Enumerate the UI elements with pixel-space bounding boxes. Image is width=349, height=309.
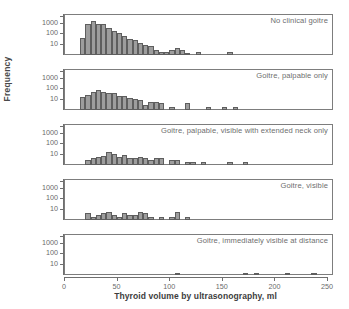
histogram-bar <box>190 162 195 165</box>
histogram-bar <box>254 273 259 275</box>
y-axis-tick: 10 <box>48 264 64 265</box>
x-axis-tick <box>64 277 65 281</box>
x-axis-title: Thyroid volume by ultrasonography, ml <box>64 291 327 301</box>
x-tick-label: 150 <box>216 282 228 291</box>
y-axis-tick: 1000 <box>48 133 64 134</box>
chart-panel: 101001000No clinical goitre <box>48 14 334 55</box>
y-axis-tick-top <box>48 16 64 17</box>
y-axis-tick: 10 <box>48 99 64 100</box>
y-axis-tick: 1000 <box>48 78 64 79</box>
panel-title: Goitre, immediately visible at distance <box>197 236 328 245</box>
panel-title: Goitre, visible <box>281 181 329 190</box>
histogram-bar <box>243 273 248 275</box>
x-axis-tick <box>327 277 328 281</box>
y-axis-tick: 100 <box>48 198 64 199</box>
y-axis-tick: 1000 <box>48 243 64 244</box>
y-tick-label: 10 <box>50 259 58 268</box>
chart-panel: 101001000Goitre, palpable only <box>48 69 334 110</box>
y-tick-label: 1000 <box>42 238 58 247</box>
y-axis-tick: 1000 <box>48 188 64 189</box>
histogram-bar <box>285 273 290 275</box>
histogram-bar <box>243 162 248 165</box>
x-tick-label: 50 <box>113 282 121 291</box>
y-tick-label: 1000 <box>42 183 58 192</box>
y-tick-label: 10 <box>50 94 58 103</box>
histogram-bar <box>196 52 201 55</box>
x-tick-label: 250 <box>321 282 333 291</box>
x-axis-tick <box>169 277 170 281</box>
chart-figure: Frequency 101001000No clinical goitre101… <box>0 0 349 309</box>
chart-panel: 101001000Goitre, visible <box>48 179 334 220</box>
histogram-bar <box>169 107 174 110</box>
y-axis-tick-top <box>48 126 64 127</box>
y-axis-tick: 100 <box>48 253 64 254</box>
y-axis-tick: 10 <box>48 154 64 155</box>
histogram-bar <box>185 53 190 55</box>
histogram-bar <box>222 107 227 110</box>
y-axis-tick: 10 <box>48 44 64 45</box>
histogram-bar <box>201 162 206 165</box>
y-tick-label: 10 <box>50 149 58 158</box>
panel-title: Goitre, palpable only <box>256 71 328 80</box>
y-axis-tick: 100 <box>48 33 64 34</box>
histogram-bar <box>159 217 164 220</box>
y-tick-label: 100 <box>46 138 58 147</box>
y-axis-tick-top <box>48 181 64 182</box>
y-tick-label: 100 <box>46 83 58 92</box>
y-axis-tick: 1000 <box>48 23 64 24</box>
y-tick-label: 100 <box>46 248 58 257</box>
x-axis-line <box>64 277 328 278</box>
y-axis-tick: 100 <box>48 88 64 89</box>
x-axis: 050100150200250 <box>64 277 334 291</box>
histogram-bar <box>159 103 164 110</box>
y-axis-tick: 100 <box>48 143 64 144</box>
histogram-bar <box>159 158 164 165</box>
histogram-bar <box>206 107 211 110</box>
histogram-bar <box>233 107 238 110</box>
x-tick-label: 0 <box>62 282 66 291</box>
panel-title: Goitre, palpable, visible with extended … <box>161 126 328 135</box>
y-axis-tick-top <box>48 71 64 72</box>
y-tick-label: 10 <box>50 39 58 48</box>
y-axis-title: Frequency <box>2 34 16 124</box>
y-tick-label: 1000 <box>42 73 58 82</box>
histogram-bar <box>175 273 180 275</box>
panel-title: No clinical goitre <box>270 16 328 25</box>
x-tick-label: 200 <box>268 282 280 291</box>
histogram-bar <box>185 103 190 110</box>
y-axis-tick: 10 <box>48 209 64 210</box>
histogram-bar <box>311 273 316 275</box>
y-tick-label: 100 <box>46 193 58 202</box>
x-axis-tick <box>274 277 275 281</box>
x-axis-tick <box>117 277 118 281</box>
histogram-bar <box>175 160 180 165</box>
y-tick-label: 1000 <box>42 128 58 137</box>
y-tick-label: 100 <box>46 28 58 37</box>
y-tick-label: 10 <box>50 204 58 213</box>
y-tick-label: 1000 <box>42 18 58 27</box>
x-axis-tick <box>222 277 223 281</box>
histogram-bar <box>175 212 180 220</box>
histogram-bar <box>148 217 153 220</box>
y-axis-tick-top <box>48 236 64 237</box>
chart-panel: 101001000Goitre, palpable, visible with … <box>48 124 334 165</box>
chart-panel: 101001000Goitre, immediately visible at … <box>48 234 334 275</box>
x-tick-label: 100 <box>163 282 175 291</box>
histogram-bar <box>227 162 232 165</box>
histogram-bar <box>227 52 232 55</box>
histogram-bar <box>185 217 190 220</box>
